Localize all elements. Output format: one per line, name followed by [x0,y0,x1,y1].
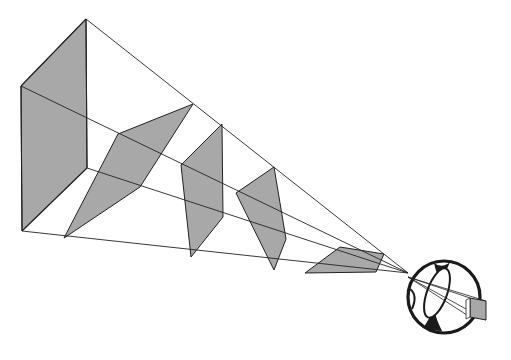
panel-3 [181,124,223,257]
panel-4 [236,167,286,270]
panel-1 [21,19,87,231]
perspective-diagram [0,0,511,360]
retinal-image [470,298,486,320]
ray-2 [21,86,408,273]
diagram-canvas [0,0,511,360]
eye-icon [408,261,486,333]
ray-3 [87,168,408,273]
retinal-image-side [466,298,470,319]
